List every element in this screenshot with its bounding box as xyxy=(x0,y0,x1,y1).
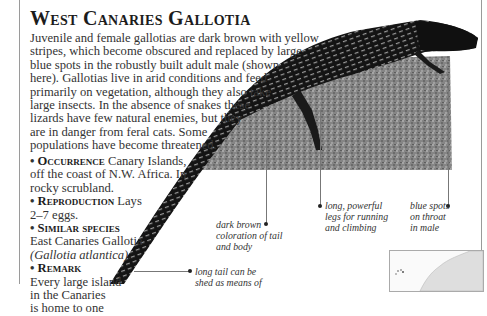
callout-text: shed as means of xyxy=(195,277,262,288)
bullet-icon: • xyxy=(30,194,38,208)
callout-leader-line xyxy=(266,140,267,224)
fact-text: in the Canaries xyxy=(30,289,186,302)
page-title: West Canaries Gallotia xyxy=(30,7,251,30)
callout-text: legs for running xyxy=(325,211,388,222)
callout-text: on throat xyxy=(410,211,449,222)
callout-leader-line xyxy=(448,75,449,205)
callout-text: long tail can be xyxy=(195,266,262,277)
callout-leader-line xyxy=(134,271,190,272)
callout-text: in male xyxy=(410,222,449,233)
callout-text: and climbing xyxy=(325,222,388,233)
body-line: blue spots in the robustly built adult m… xyxy=(30,59,266,72)
fact-heading: Occurrence xyxy=(38,154,105,168)
bullet-icon: • xyxy=(30,154,38,168)
fact-similar-species: • Similar species East Canaries Gallotia… xyxy=(30,222,186,262)
body-line: primarily on vegetation, although they a… xyxy=(30,86,266,99)
map-icon xyxy=(390,251,483,291)
callout-blue-spots: blue spots on throat in male xyxy=(410,200,449,233)
fact-text: 2–7 eggs. xyxy=(30,209,186,222)
fact-text: Canary Islands, xyxy=(108,154,186,168)
callout-leader-line xyxy=(320,110,321,206)
fact-text: Every large island xyxy=(30,276,186,289)
fact-text: is home to one xyxy=(30,302,186,315)
callout-text: and body xyxy=(216,241,282,252)
bullet-icon: • xyxy=(30,261,38,275)
fact-heading: Remark xyxy=(38,261,82,275)
fact-text: rocky scrubland. xyxy=(30,182,186,195)
fact-text: East Canaries Gallotia xyxy=(30,235,186,248)
body-line: Juvenile and female gallotias are dark b… xyxy=(30,32,266,45)
body-line: stripes, which become obscured and repla… xyxy=(30,45,266,58)
callout-dot xyxy=(318,204,322,208)
fact-text: Lays xyxy=(117,194,141,208)
callout-legs: long, powerful legs for running and clim… xyxy=(325,200,388,233)
page-margin-rule-right xyxy=(481,0,482,284)
callout-text: coloration of tail xyxy=(216,230,282,241)
fact-heading: Reproduction xyxy=(38,194,115,208)
bullet-icon: • xyxy=(30,221,38,235)
callout-dot xyxy=(188,269,192,273)
callout-tail: long tail can be shed as means of xyxy=(195,266,262,288)
fact-heading: Similar species xyxy=(38,221,120,235)
body-line: lizards have few natural enemies, but th… xyxy=(30,112,266,125)
page-margin-rule-left xyxy=(19,0,20,284)
body-line: large insects. In the absence of snakes … xyxy=(30,99,266,112)
body-line: are in danger from feral cats. Some xyxy=(30,126,266,139)
distribution-map xyxy=(389,250,484,292)
callout-text: blue spots xyxy=(410,200,449,211)
fact-text: (Gallotia atlantica). xyxy=(30,249,186,262)
fact-occurrence: • Occurrence Canary Islands, off the coa… xyxy=(30,155,186,195)
callout-dark-brown: dark brown coloration of tail and body xyxy=(216,219,282,252)
body-line: populations have become threatened. xyxy=(30,139,266,152)
description-text: Juvenile and female gallotias are dark b… xyxy=(30,32,266,153)
fact-text: off the coast of N.W. Africa. In xyxy=(30,168,186,181)
fact-reproduction: • Reproduction Lays 2–7 eggs. xyxy=(30,195,186,222)
callout-text: long, powerful xyxy=(325,200,388,211)
callout-text: dark brown xyxy=(216,219,282,230)
fact-list: • Occurrence Canary Islands, off the coa… xyxy=(30,155,186,316)
body-line: here). Gallotias live in arid conditions… xyxy=(30,72,266,85)
